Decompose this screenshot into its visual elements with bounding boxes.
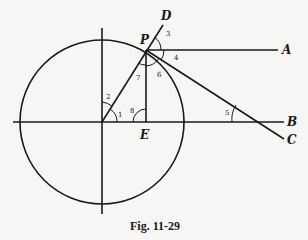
angle-number-8: 8 [130, 107, 134, 115]
point-label-P: P [139, 33, 150, 47]
angle-2-arc [102, 102, 112, 106]
unit-circle-diagram: P D A B C E 1 2 3 4 5 6 7 8 Fig. 11-29 [0, 0, 308, 240]
tangent-line-PC [146, 50, 284, 139]
angle-number-3: 3 [166, 30, 170, 38]
angle-number-4: 4 [174, 54, 179, 62]
angle-1-arc [110, 109, 117, 122]
point-label-E: E [139, 128, 150, 142]
angle-4-arc [161, 50, 164, 60]
angle-number-7: 7 [136, 74, 140, 82]
figure-caption: Fig. 11-29 [130, 219, 180, 233]
point-label-B: B [286, 115, 297, 129]
angle-number-2: 2 [106, 93, 110, 101]
point-label-D: D [160, 9, 172, 23]
angle-number-1: 1 [118, 111, 122, 119]
angle-number-6: 6 [157, 71, 162, 79]
angle-number-5: 5 [225, 109, 229, 117]
angle-8-arc [133, 109, 146, 122]
point-label-A: A [281, 43, 291, 57]
point-label-C: C [287, 133, 297, 147]
angle-7-arc [138, 63, 146, 65]
